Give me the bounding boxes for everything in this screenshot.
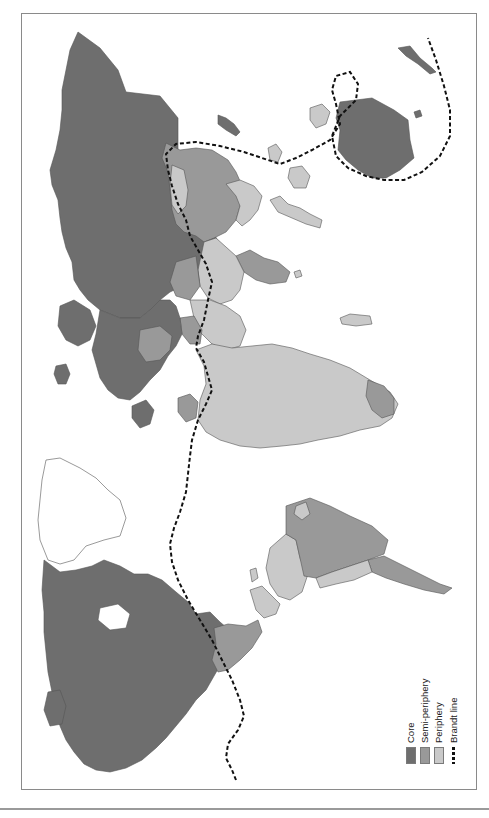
region-borneo (288, 166, 310, 188)
legend-label-brandt-line: Brandt line (448, 698, 459, 743)
region-philippines (268, 144, 282, 162)
region-iceland (54, 364, 70, 384)
region-india (236, 250, 290, 284)
map-legend: Core Semi-periphery Periphery Brandt lin… (400, 683, 462, 781)
legend-label-semi-periphery: Semi-periphery (419, 679, 430, 743)
page-divider (0, 808, 489, 810)
region-japan (218, 115, 240, 136)
region-indonesia (270, 196, 322, 228)
region-iberia (178, 394, 198, 422)
region-south-asia (198, 238, 244, 304)
periphery-swatch (434, 747, 444, 764)
region-madagascar (340, 314, 372, 326)
region-greenland (38, 458, 126, 564)
region-scandinavia (58, 300, 96, 346)
legend-label-core: Core (405, 722, 416, 743)
region-argentina (368, 556, 452, 594)
region-new-zealand (398, 46, 436, 74)
region-tasmania (414, 110, 422, 118)
region-uk (132, 400, 154, 428)
region-australia (336, 98, 414, 178)
region-sri-lanka (294, 270, 302, 278)
region-mexico (212, 620, 262, 672)
legend-label-periphery: Periphery (433, 702, 444, 743)
brandt-line-swatch (452, 747, 455, 764)
semi-periphery-swatch (420, 747, 430, 764)
region-papua (310, 104, 330, 128)
region-north-america (42, 560, 234, 772)
region-caribbean (250, 568, 258, 582)
core-swatch (406, 747, 416, 764)
